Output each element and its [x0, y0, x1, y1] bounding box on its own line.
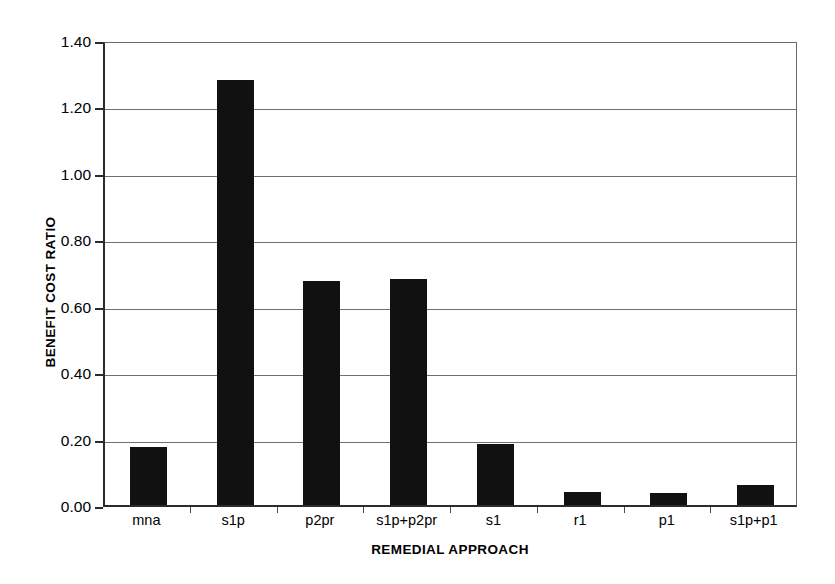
bar	[303, 281, 340, 505]
bar-chart: BENEFIT COST RATIO REMEDIAL APPROACH 0.0…	[0, 0, 835, 584]
plot-area	[103, 42, 797, 507]
x-axis-tick-label: s1p+p1	[730, 512, 778, 528]
x-axis-tick-mark	[710, 507, 711, 513]
x-axis-tick-label: s1p	[221, 512, 244, 528]
x-axis-tick-label: s1p+p2pr	[376, 512, 437, 528]
y-axis-tick-label: 0.80	[21, 232, 91, 250]
y-axis-tick-mark	[95, 374, 103, 376]
gridline	[105, 109, 796, 110]
y-axis-tick-label: 0.20	[21, 432, 91, 450]
bar	[130, 447, 167, 505]
bar	[477, 444, 514, 505]
x-axis-tick-mark	[190, 507, 191, 513]
bar	[737, 485, 774, 505]
gridline	[105, 242, 796, 243]
bar	[650, 493, 687, 505]
x-axis-tick-mark	[624, 507, 625, 513]
bar	[564, 492, 601, 505]
gridline	[105, 375, 796, 376]
x-axis-title: REMEDIAL APPROACH	[103, 542, 797, 557]
gridline	[105, 442, 796, 443]
x-axis-tick-mark	[450, 507, 451, 513]
x-axis-tick-label: r1	[574, 512, 587, 528]
y-axis-tick-label: 1.40	[21, 33, 91, 51]
x-axis-tick-label: mna	[132, 512, 160, 528]
bar	[390, 279, 427, 505]
y-axis-title: BENEFIT COST RATIO	[30, 0, 70, 584]
gridline	[105, 176, 796, 177]
y-axis-tick-label: 0.00	[21, 498, 91, 516]
y-axis-tick-label: 1.20	[21, 99, 91, 117]
gridline	[105, 309, 796, 310]
y-axis-tick-mark	[95, 441, 103, 443]
y-axis-tick-mark	[95, 42, 103, 44]
y-axis-tick-mark	[95, 507, 103, 509]
x-axis-tick-mark	[537, 507, 538, 513]
y-axis-tick-label: 0.60	[21, 299, 91, 317]
x-axis-tick-mark	[277, 507, 278, 513]
x-axis-tick-label: p2pr	[305, 512, 334, 528]
y-axis-tick-label: 0.40	[21, 365, 91, 383]
bar	[217, 80, 254, 505]
x-axis-tick-mark	[363, 507, 364, 513]
y-axis-tick-mark	[95, 241, 103, 243]
y-axis-tick-mark	[95, 175, 103, 177]
y-axis-tick-mark	[95, 308, 103, 310]
y-axis-tick-label: 1.00	[21, 166, 91, 184]
x-axis-tick-label: p1	[659, 512, 675, 528]
x-axis-tick-label: s1	[486, 512, 501, 528]
y-axis-tick-mark	[95, 108, 103, 110]
